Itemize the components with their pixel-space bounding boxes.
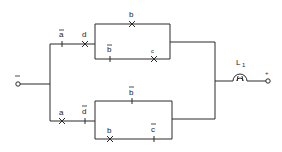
contact-b-lower-bottom: b	[107, 126, 113, 142]
lamp-l1: L 1	[233, 58, 247, 81]
label-d-bar: d	[82, 107, 86, 116]
contact-a-lower: a	[59, 108, 65, 124]
label-c: c	[151, 48, 154, 54]
label-b-lower: b	[107, 126, 112, 135]
label-b-bar-lower: b	[129, 88, 134, 97]
label-d: d	[82, 30, 86, 39]
label-a-bar: a	[59, 30, 64, 39]
upper-parallel-box	[95, 24, 215, 59]
label-b: b	[129, 10, 134, 19]
label-b-bar: b	[107, 45, 112, 54]
label-c-bar: c	[151, 125, 155, 134]
lamp-label: L	[236, 58, 241, 67]
contact-c-upper-bottom: c	[151, 48, 157, 62]
positive-terminal: +	[265, 70, 270, 83]
negative-terminal	[15, 76, 50, 86]
lower-parallel-box	[95, 101, 215, 139]
circuit-diagram: a d b b c a d	[0, 0, 282, 152]
label-a: a	[59, 108, 64, 117]
plus-label: +	[265, 70, 269, 76]
lamp-subscript: 1	[242, 62, 246, 68]
